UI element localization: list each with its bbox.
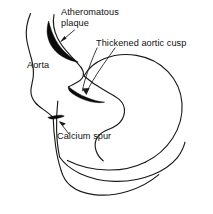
- label-thickened-aortic-cusp: Thickened aortic cusp: [96, 38, 186, 49]
- leader-arrowhead-atheromatous-plaque: [60, 36, 66, 42]
- heart-septal-lobe-contour: [84, 76, 125, 161]
- leader-line-thickened-aortic-cusp-a: [87, 48, 115, 91]
- label-atheromatous-plaque-line2: plaque: [61, 18, 89, 28]
- heart-base-connector-contour: [177, 142, 185, 157]
- anatomical-figure: Atheromatous plaque Thickened aortic cus…: [0, 0, 213, 214]
- heart-lower-right-contour: [67, 160, 145, 170]
- leader-arrowhead-calcium-spur: [59, 121, 66, 126]
- label-calcium-spur: Calcium spur: [57, 131, 111, 142]
- calcium-spur-lesion: [48, 115, 64, 119]
- label-atheromatous-plaque-line1: Atheromatous: [61, 7, 119, 17]
- aorta-root-inner-contour: [69, 68, 84, 87]
- leader-arrowhead-thickened-aortic-cusp: [82, 88, 90, 95]
- aortic-annulus-line-right: [57, 101, 60, 157]
- label-aorta: Aorta: [27, 60, 49, 71]
- heart-left-ventricle-contour: [61, 171, 159, 195]
- label-atheromatous-plaque: Atheromatous plaque: [61, 7, 145, 28]
- anatomy-drawing-canvas: [0, 0, 213, 214]
